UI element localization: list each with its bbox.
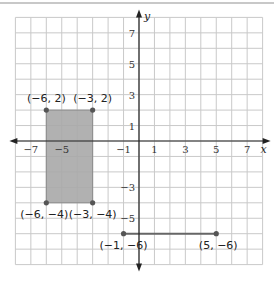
coordinate-plane: −7−5−113577531−3−5xy (−6, 2)(−3, 2)(−3, … [0, 0, 274, 289]
x-tick-label: 3 [182, 144, 188, 155]
point-coordinate-label: (−6, −4) [20, 208, 68, 221]
point-marker [214, 231, 219, 236]
point-marker [121, 231, 126, 236]
point-coordinate-label: (5, −6) [199, 239, 238, 252]
y-tick-label: 3 [129, 90, 135, 101]
x-tick-label: −1 [116, 144, 131, 155]
y-axis-label: y [143, 10, 151, 23]
y-tick-label: 1 [129, 121, 135, 132]
point-coordinate-label: (−1, −6) [100, 239, 148, 252]
x-tick-label: 5 [213, 144, 219, 155]
point-marker [44, 108, 49, 113]
x-axis-label: x [261, 143, 268, 156]
x-tick-label: −7 [23, 144, 38, 155]
y-tick-label: 7 [129, 28, 135, 39]
x-tick-label: 1 [151, 144, 157, 155]
point-coordinate-label: (−3, 2) [73, 92, 112, 105]
x-axis-arrow-left-icon [9, 138, 17, 144]
y-tick-label: −5 [120, 213, 135, 224]
y-axis-arrow-down-icon [136, 264, 142, 272]
shaded-rectangle [46, 110, 92, 203]
x-tick-label: 7 [244, 144, 250, 155]
point-marker [90, 200, 95, 205]
point-coordinate-label: (−6, 2) [27, 92, 66, 105]
y-tick-label: −3 [120, 182, 135, 193]
x-tick-label: −5 [54, 144, 69, 155]
point-coordinate-label: (−3, −4) [69, 208, 117, 221]
y-axis-arrow-up-icon [136, 9, 142, 17]
point-marker [90, 108, 95, 113]
y-tick-label: 5 [129, 59, 135, 70]
point-marker [44, 200, 49, 205]
